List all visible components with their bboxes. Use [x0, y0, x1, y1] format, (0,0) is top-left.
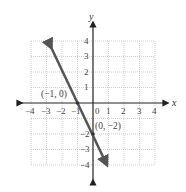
x-tick: −2 [56, 107, 66, 116]
x-tick: −3 [41, 107, 51, 116]
y-tick: 3 [84, 52, 89, 61]
y-tick: −4 [80, 161, 90, 170]
y-tick: −2 [80, 130, 90, 139]
x-tick: −4 [25, 107, 35, 116]
x-tick: 0 [95, 107, 100, 116]
y-tick: 4 [84, 37, 89, 46]
x-tick: −1 [71, 107, 81, 116]
point-x-intercept [76, 101, 80, 105]
y-axis-label: y [89, 12, 93, 22]
y-tick: −3 [80, 145, 90, 154]
y-tick: 1 [84, 83, 89, 92]
y-tick: 2 [84, 68, 89, 77]
point-y-intercept [91, 132, 95, 136]
x-tick: 3 [137, 107, 142, 116]
point-label-y-intercept: (0, −2) [95, 122, 121, 132]
x-tick: 4 [152, 107, 157, 116]
x-tick: 1 [106, 107, 111, 116]
x-tick: 2 [121, 107, 126, 116]
point-label-x-intercept: (−1, 0) [41, 90, 67, 100]
coordinate-plane [0, 0, 186, 192]
x-axis-label: x [172, 98, 176, 108]
